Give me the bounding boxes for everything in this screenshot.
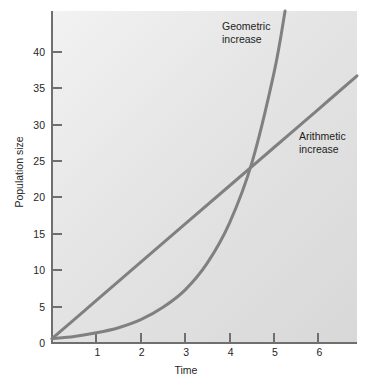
y-axis-tick [53, 342, 62, 344]
y-axis-tick [53, 124, 62, 126]
x-axis-tick [317, 333, 319, 342]
x-axis-title: Time [0, 364, 372, 376]
y-axis-tick [53, 160, 62, 162]
x-axis-tick-label: 3 [174, 347, 198, 358]
x-axis-tick-label: 2 [130, 347, 154, 358]
y-axis-tick [53, 51, 62, 53]
y-axis-tick-label: 5 [17, 302, 45, 313]
x-axis-tick-label: 5 [263, 347, 287, 358]
x-axis-tick-label: 1 [85, 347, 109, 358]
x-axis-tick [229, 333, 231, 342]
x-axis-tick-label: 4 [219, 347, 243, 358]
y-axis-tick [53, 233, 62, 235]
y-axis-tick [53, 306, 62, 308]
x-axis-tick [273, 333, 275, 342]
annotation-geometric-increase: Geometric increase [222, 20, 270, 46]
y-axis-tick [53, 87, 62, 89]
population-growth-chart: 0510152025303540 123456 Geometric increa… [0, 0, 372, 386]
annotation-arithmetic-increase: Arithmetic increase [299, 130, 346, 156]
y-axis-title: Population size [13, 107, 25, 237]
x-axis-tick [140, 333, 142, 342]
x-axis-tick [184, 333, 186, 342]
plot-area [52, 11, 357, 343]
x-axis-tick-label: 6 [307, 347, 331, 358]
y-axis-tick-label: 10 [17, 265, 45, 276]
y-axis-tick-label: 40 [17, 47, 45, 58]
y-axis-tick [53, 269, 62, 271]
y-axis-tick-label: 35 [17, 83, 45, 94]
y-axis-tick-label: 0 [17, 338, 45, 349]
x-axis-line [51, 342, 357, 344]
y-axis-tick [53, 196, 62, 198]
x-axis-tick [95, 333, 97, 342]
y-axis-line [51, 11, 53, 344]
